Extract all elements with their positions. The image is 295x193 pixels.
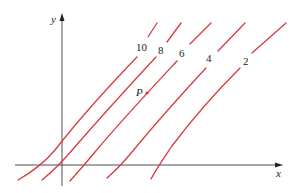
curve-label-4: 4 [206,52,212,64]
level-curve-10: 10 [18,23,157,180]
curve-label-8: 8 [158,44,164,56]
curve-label-10: 10 [136,41,148,53]
point-p-label: P [135,86,143,98]
point-p-marker [145,91,148,94]
level-curve-8: 8 [42,23,181,180]
point-p: P [135,86,149,98]
y-axis-arrow-icon [60,13,65,21]
level-curve-4: 4 [107,23,245,178]
level-curve-2: 2 [151,23,286,179]
level-curve-diagram: y x 10 8 6 4 2 P [0,0,295,193]
x-axis-label: x [275,167,281,179]
y-axis-label: y [50,13,56,25]
curve-label-6: 6 [179,47,185,59]
axes: y x [15,13,283,186]
curve-label-2: 2 [243,55,249,67]
